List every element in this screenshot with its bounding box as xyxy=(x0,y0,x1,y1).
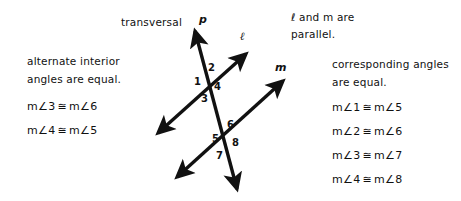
alternate-interior-equation-2: m∠4≅m∠5 xyxy=(27,124,98,137)
corresponding-angles-block: corresponding angles are equal. xyxy=(332,58,449,94)
congruent-symbol: ≅ xyxy=(360,125,374,138)
line-l-label: ℓ xyxy=(240,30,245,43)
equation-left-term: m∠4 xyxy=(27,124,55,137)
corresponding-angles-heading-line-1: corresponding angles xyxy=(332,58,449,70)
corresponding-equation-3: m∠3≅m∠7 xyxy=(332,149,403,162)
equation-left-term: m∠3 xyxy=(27,100,55,113)
alternate-interior-heading-line-2: angles are equal. xyxy=(27,73,121,85)
equation-right-term: m∠8 xyxy=(374,173,402,186)
parallel-note-block: ℓ and m are parallel. xyxy=(291,11,355,45)
equation-left-term: m∠3 xyxy=(332,149,360,162)
corresponding-angles-heading-line-2: are equal. xyxy=(332,76,449,88)
point-p-label: p xyxy=(199,13,207,26)
transversal-label: transversal xyxy=(121,16,182,28)
corresponding-equation-1: m∠1≅m∠5 xyxy=(332,101,403,114)
equation-right-term: m∠5 xyxy=(69,124,97,137)
congruent-symbol: ≅ xyxy=(360,173,374,186)
angle-number-6: 6 xyxy=(227,119,234,130)
parallel-note-line-2: parallel. xyxy=(291,28,355,40)
alternate-interior-angles-block: alternate interior angles are equal. xyxy=(27,55,121,91)
equation-right-term: m∠5 xyxy=(374,101,402,114)
alternate-interior-equation-1: m∠3≅m∠6 xyxy=(27,100,98,113)
angle-number-8: 8 xyxy=(232,137,239,148)
transversal-line-p xyxy=(195,31,237,189)
equation-right-term: m∠7 xyxy=(374,149,402,162)
equation-right-term: m∠6 xyxy=(69,100,97,113)
equation-left-term: m∠1 xyxy=(332,101,360,114)
equation-left-term: m∠4 xyxy=(332,173,360,186)
equation-left-term: m∠2 xyxy=(332,125,360,138)
angle-number-2: 2 xyxy=(208,62,215,73)
congruent-symbol: ≅ xyxy=(55,100,69,113)
geometry-diagram-page: transversal p ℓ m 1 2 3 4 5 6 7 8 altern… xyxy=(0,0,461,201)
line-m-label: m xyxy=(275,61,286,74)
parallel-note-line-1: ℓ and m are xyxy=(291,11,355,23)
angle-number-3: 3 xyxy=(201,93,208,104)
congruent-symbol: ≅ xyxy=(55,124,69,137)
angle-number-5: 5 xyxy=(212,133,219,144)
corresponding-equation-2: m∠2≅m∠6 xyxy=(332,125,403,138)
alternate-interior-heading-line-1: alternate interior xyxy=(27,55,121,67)
equation-right-term: m∠6 xyxy=(374,125,402,138)
angle-number-1: 1 xyxy=(194,76,201,87)
congruent-symbol: ≅ xyxy=(360,149,374,162)
angle-number-4: 4 xyxy=(214,81,221,92)
congruent-symbol: ≅ xyxy=(360,101,374,114)
angle-number-7: 7 xyxy=(216,150,223,161)
corresponding-equation-4: m∠4≅m∠8 xyxy=(332,173,403,186)
